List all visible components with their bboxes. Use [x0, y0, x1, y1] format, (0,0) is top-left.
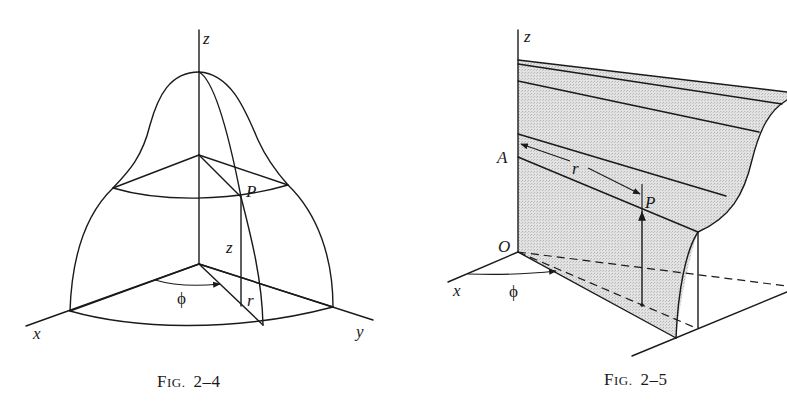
- caption-fig-2-4: FIG.2–4: [157, 372, 220, 391]
- origin-o-label: O: [498, 237, 510, 256]
- x-axis-line: [448, 252, 518, 282]
- phi-arrow: [468, 271, 556, 274]
- point-a-label: A: [496, 148, 508, 167]
- y-axis-label: y: [354, 322, 364, 341]
- base-arc: [70, 307, 333, 326]
- p-foot-dot: [640, 303, 644, 307]
- radius-r-label: r: [572, 159, 579, 178]
- point-p-label: P: [644, 193, 655, 212]
- base-radial-y: [199, 264, 333, 307]
- phi-arrow: [155, 280, 220, 285]
- left-meridian-curve: [70, 72, 199, 311]
- figure-canvas: z x y P z r ϕ FIG.2–4: [0, 0, 787, 406]
- z-axis-label: z: [202, 29, 210, 48]
- caption-fig-2-5: FIG.2–5: [604, 370, 667, 389]
- upper-radial-y: [199, 155, 288, 185]
- figure-2-5: z x A O P r ϕ FIG.2–5: [448, 27, 787, 389]
- height-z-label: z: [225, 238, 233, 257]
- x-axis-label: x: [32, 324, 41, 343]
- angle-phi-label: ϕ: [509, 282, 518, 301]
- x-axis-label: x: [452, 281, 461, 300]
- upper-radial-x: [113, 155, 199, 188]
- latitude-arc: [113, 185, 288, 198]
- figure-2-4: z x y P z r ϕ FIG.2–4: [26, 29, 373, 391]
- point-p-label: P: [245, 182, 256, 201]
- upper-radial-p: [199, 155, 241, 197]
- angle-phi-label: ϕ: [177, 289, 186, 308]
- z-axis-label: z: [523, 27, 531, 46]
- radius-r-label: r: [247, 291, 254, 310]
